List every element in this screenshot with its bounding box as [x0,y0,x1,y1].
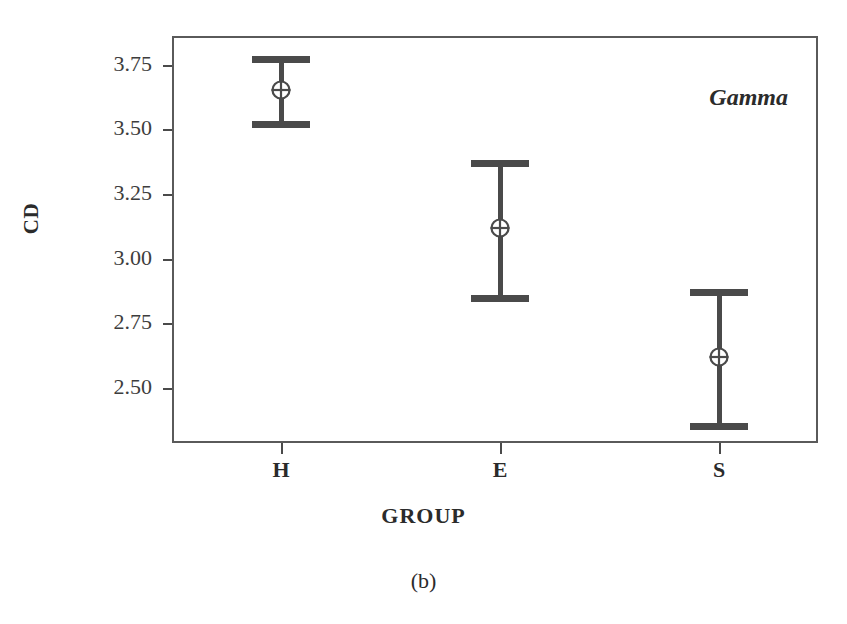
y-tick-label: 3.25 [80,182,152,204]
errorbar-lower-cap [690,423,748,430]
x-tick-label: E [470,457,530,483]
x-tick-mark [500,443,502,454]
figure-container: 3.75 3.50 3.25 3.00 2.75 2.50 CD Gamma [0,0,847,624]
y-axis-title: CD [19,184,44,254]
y-tick-label: 3.00 [80,247,152,269]
data-point-marker-h [269,78,293,102]
series-annotation-label: Gamma [709,84,788,111]
y-tick-label: 2.75 [80,311,152,333]
y-tick-label: 3.75 [80,53,152,75]
x-tick-label: S [689,457,749,483]
errorbar-lower-cap [471,295,529,302]
x-axis-title: GROUP [0,503,847,529]
figure-caption: (b) [0,568,847,594]
y-tick-label: 2.50 [80,376,152,398]
data-point-marker-e [488,216,512,240]
errorbar-lower-cap [252,121,310,128]
x-tick-label: H [251,457,311,483]
x-tick-mark [719,443,721,454]
data-point-marker-s [707,345,731,369]
y-tick-label: 3.50 [80,117,152,139]
x-tick-mark [281,443,283,454]
